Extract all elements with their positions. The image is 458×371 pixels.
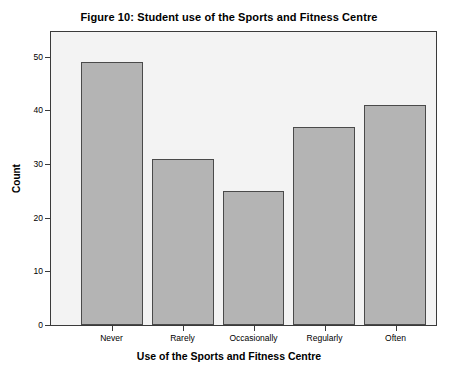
x-tick-mark bbox=[325, 326, 326, 331]
x-tick-mark bbox=[396, 326, 397, 331]
y-axis-title-text: Count bbox=[11, 164, 22, 193]
bar[interactable] bbox=[81, 62, 143, 325]
x-tick-mark bbox=[254, 326, 255, 331]
x-axis-title: Use of the Sports and Fitness Centre bbox=[0, 350, 458, 362]
bar-slot bbox=[289, 32, 360, 325]
y-tick-label: 0 bbox=[38, 320, 43, 330]
y-tick-label: 40 bbox=[34, 105, 43, 115]
x-tick-mark bbox=[112, 326, 113, 331]
bar[interactable] bbox=[152, 159, 214, 325]
bar[interactable] bbox=[293, 127, 355, 325]
x-tick-group: NeverRarelyOccasionallyRegularlyOften bbox=[76, 326, 431, 350]
plot-area bbox=[50, 31, 437, 326]
bar-slot bbox=[77, 32, 148, 325]
bar[interactable] bbox=[223, 191, 285, 325]
y-axis-title: Count bbox=[6, 31, 26, 326]
x-tick-label: Regularly bbox=[289, 333, 360, 343]
x-axis: NeverRarelyOccasionallyRegularlyOften bbox=[50, 326, 437, 350]
chart-title: Figure 10: Student use of the Sports and… bbox=[0, 11, 458, 23]
y-tick-label: 20 bbox=[34, 213, 43, 223]
figure-container: Figure 10: Student use of the Sports and… bbox=[0, 0, 458, 371]
bar-slot bbox=[359, 32, 430, 325]
x-tick-label: Occasionally bbox=[218, 333, 289, 343]
x-tick-mark bbox=[183, 326, 184, 331]
x-tick-label: Never bbox=[76, 333, 147, 343]
bar-slot bbox=[218, 32, 289, 325]
y-tick-label: 10 bbox=[34, 266, 43, 276]
x-tick-label: Often bbox=[360, 333, 431, 343]
plot-inner bbox=[51, 32, 436, 325]
y-axis: Count 01020304050 bbox=[0, 31, 50, 326]
bar-slot bbox=[148, 32, 219, 325]
bar[interactable] bbox=[364, 105, 426, 325]
y-tick-label: 50 bbox=[34, 52, 43, 62]
y-tick-label: 30 bbox=[34, 159, 43, 169]
x-tick-label: Rarely bbox=[147, 333, 218, 343]
bar-series bbox=[77, 32, 430, 325]
